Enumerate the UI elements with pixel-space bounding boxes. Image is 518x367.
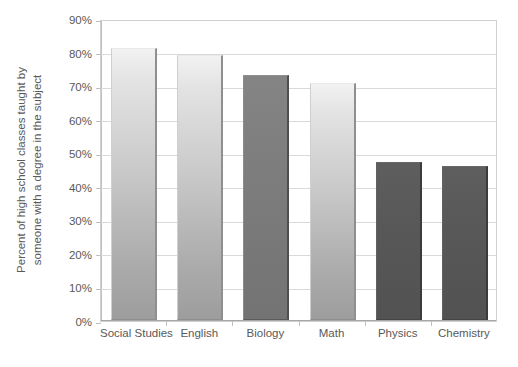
y-axis-tick-label: 70% xyxy=(69,81,92,93)
y-axis-tick-label: 90% xyxy=(69,14,92,26)
y-axis-line xyxy=(101,21,102,321)
bar-social-studies[interactable] xyxy=(111,48,157,320)
gridline xyxy=(101,188,496,189)
y-axis-tick-label: 50% xyxy=(69,148,92,160)
y-axis-tick-label: 0% xyxy=(75,316,92,328)
gridline xyxy=(101,155,496,156)
y-axis-tickmark xyxy=(96,255,101,256)
gridline xyxy=(101,289,496,290)
bar-english[interactable] xyxy=(177,55,223,320)
gridline xyxy=(101,88,496,89)
y-axis-title: Percent of high school classes taught by… xyxy=(0,0,58,340)
y-axis-tickmark xyxy=(96,188,101,189)
y-axis-tickmark xyxy=(96,222,101,223)
bar-math[interactable] xyxy=(310,83,356,320)
y-axis-tickmark xyxy=(96,121,101,122)
x-axis-tick-label: Social Studies xyxy=(100,326,166,340)
x-axis-tick-label: Physics xyxy=(365,326,431,340)
y-axis-tick-label: 10% xyxy=(69,282,92,294)
y-axis-title-line-1: Percent of high school classes taught by xyxy=(13,67,29,273)
gridline xyxy=(101,255,496,256)
y-axis-tickmark xyxy=(96,289,101,290)
x-axis-tick-label: Biology xyxy=(232,326,298,340)
y-axis-tickmark xyxy=(96,21,101,22)
x-axis-tick-labels: Social StudiesEnglishBiologyMathPhysicsC… xyxy=(100,326,497,350)
gridline xyxy=(101,54,496,55)
y-axis-tickmark xyxy=(96,155,101,156)
y-axis-tick-label: 20% xyxy=(69,249,92,261)
bar-physics[interactable] xyxy=(376,162,422,320)
y-axis-title-line-2: someone with a degree in the subject xyxy=(29,67,45,273)
bar-chart: Percent of high school classes taught by… xyxy=(0,0,518,367)
y-axis-tickmark xyxy=(96,54,101,55)
y-axis-tick-label: 80% xyxy=(69,48,92,60)
x-axis-tick-label: Chemistry xyxy=(431,326,497,340)
y-axis-tick-label: 40% xyxy=(69,182,92,194)
gridline xyxy=(101,121,496,122)
y-axis-tick-label: 30% xyxy=(69,215,92,227)
gridline xyxy=(101,222,496,223)
y-axis-tick-labels: 0%10%20%30%40%50%60%70%80%90% xyxy=(58,0,96,367)
bar-biology[interactable] xyxy=(243,75,289,320)
y-axis-tickmark xyxy=(96,88,101,89)
x-axis-tick-label: English xyxy=(166,326,232,340)
plot-area xyxy=(100,20,497,322)
y-axis-tickmark xyxy=(96,323,101,324)
x-axis-tick-label: Math xyxy=(299,326,365,340)
y-axis-tick-label: 60% xyxy=(69,115,92,127)
bar-chemistry[interactable] xyxy=(442,166,488,320)
